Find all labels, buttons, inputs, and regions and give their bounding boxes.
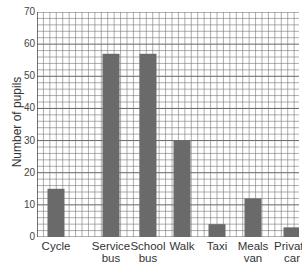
plot-area: [37, 12, 299, 237]
y-tick-label: 40: [13, 102, 35, 113]
bar-taxi: [209, 224, 226, 237]
y-tick-label: 60: [13, 38, 35, 49]
y-tick-label: 70: [13, 6, 35, 17]
y-tick-label: 10: [13, 199, 35, 210]
y-tick-label: 0: [13, 231, 35, 242]
y-tick-label: 20: [13, 167, 35, 178]
bar-service-bus: [103, 54, 120, 237]
y-tick-label: 30: [13, 135, 35, 146]
y-tick-label: 50: [13, 70, 35, 81]
bar-walk: [174, 141, 191, 237]
bar-school-bus: [140, 54, 157, 237]
x-tick-label: Privatecar: [270, 240, 302, 264]
y-axis-label: Number of pupils: [10, 67, 24, 177]
bar-cycle: [48, 189, 65, 237]
bar-meals-van: [245, 198, 262, 237]
bar-private-car: [284, 227, 300, 237]
x-tick-label: Cycle: [34, 240, 78, 252]
x-tick-label: Mealsvan: [231, 240, 275, 264]
